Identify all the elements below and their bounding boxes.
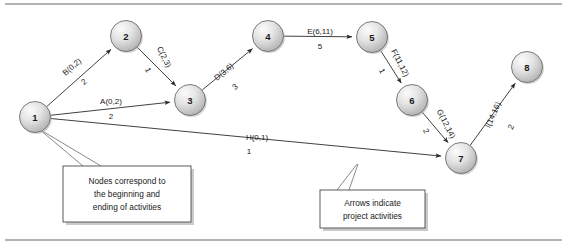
edge-label-I: I(14,16) xyxy=(483,100,503,129)
edge-label-F: F(11,12) xyxy=(389,48,411,79)
edge-duration-H: 1 xyxy=(247,147,252,156)
edge-duration-E: 5 xyxy=(318,42,323,51)
edge-duration-C: 1 xyxy=(143,66,153,75)
edge-label-C: C(2,3) xyxy=(155,45,173,69)
edge-C-2-to-3 xyxy=(137,47,176,86)
node-1-label: 1 xyxy=(32,112,38,123)
edge-duration-B: 2 xyxy=(79,77,89,87)
nodes-callout-line-3: ending of activities xyxy=(93,202,161,212)
node-2-label: 2 xyxy=(123,31,128,42)
edge-duration-G: 2 xyxy=(421,127,431,136)
callout-annotations: Nodes correspond tothe beginning andendi… xyxy=(39,129,428,231)
edge-label-A: A(0,2) xyxy=(100,97,122,106)
edge-E-4-to-5 xyxy=(284,36,352,37)
edge-duration-I: 2 xyxy=(506,123,516,131)
node-3-label: 3 xyxy=(187,95,192,106)
node-6: 6 xyxy=(397,85,429,118)
edge-label-H: H(0,1) xyxy=(246,133,269,142)
node-4: 4 xyxy=(253,21,285,54)
arrows-callout-line-2: project activities xyxy=(343,211,402,221)
edge-label-B: B(0,2) xyxy=(61,56,84,77)
edge-label-E: E(6,11) xyxy=(307,27,333,36)
nodes-callout-line-2: the beginning and xyxy=(94,189,160,199)
edge-label-D: D(3,6) xyxy=(213,61,236,82)
node-8: 8 xyxy=(512,52,544,85)
node-2: 2 xyxy=(111,21,143,54)
event-nodes: 12345678 xyxy=(20,21,544,176)
arrows-callout-box xyxy=(320,190,425,228)
node-5: 5 xyxy=(357,22,389,55)
node-8-label: 8 xyxy=(524,62,529,73)
arrows-callout-leader-1 xyxy=(337,164,357,190)
node-5-label: 5 xyxy=(369,32,375,43)
edge-label-G: G(12,14) xyxy=(435,108,458,141)
nodes-callout-leader-1 xyxy=(39,129,83,166)
nodes-callout-leader-2 xyxy=(39,129,101,166)
edge-duration-A: 2 xyxy=(109,112,114,121)
edge-duration-D: 3 xyxy=(230,82,240,92)
nodes-callout: Nodes correspond tothe beginning andendi… xyxy=(39,129,194,225)
project-network-figure: Nodes correspond tothe beginning andendi… xyxy=(0,0,567,251)
node-6-label: 6 xyxy=(409,95,414,106)
nodes-callout-line-1: Nodes correspond to xyxy=(88,176,165,186)
node-7-label: 7 xyxy=(458,153,463,164)
edge-duration-F: 1 xyxy=(377,67,387,76)
node-4-label: 4 xyxy=(265,31,271,42)
arrows-callout-line-1: Arrows indicate xyxy=(344,198,401,208)
node-3: 3 xyxy=(175,85,207,118)
node-7: 7 xyxy=(446,143,478,176)
arrows-callout: Arrows indicateproject activities xyxy=(320,164,428,231)
network-diagram-canvas: Nodes correspond tothe beginning andendi… xyxy=(0,0,567,251)
